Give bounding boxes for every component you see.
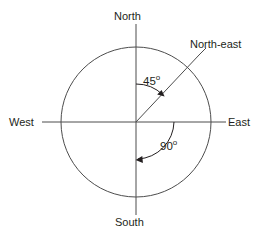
direction-label-north-east: North-east xyxy=(190,38,241,50)
angle-label-90: 90o xyxy=(160,139,177,152)
northeast-ray-line xyxy=(136,55,199,122)
direction-label-east: East xyxy=(228,116,250,128)
degree-symbol-icon: o xyxy=(173,138,177,147)
direction-label-south: South xyxy=(115,216,144,228)
angle-90-arrowhead xyxy=(136,156,143,163)
compass-diagram: North East South West North-east 45o 90o xyxy=(0,0,267,243)
angle-label-45: 45o xyxy=(143,74,160,87)
compass-graphic xyxy=(0,0,267,243)
direction-label-west: West xyxy=(9,116,34,128)
degree-symbol-icon: o xyxy=(156,73,160,82)
direction-label-north: North xyxy=(114,10,141,22)
angle-90-value: 90 xyxy=(160,140,173,152)
angle-45-value: 45 xyxy=(143,75,156,87)
